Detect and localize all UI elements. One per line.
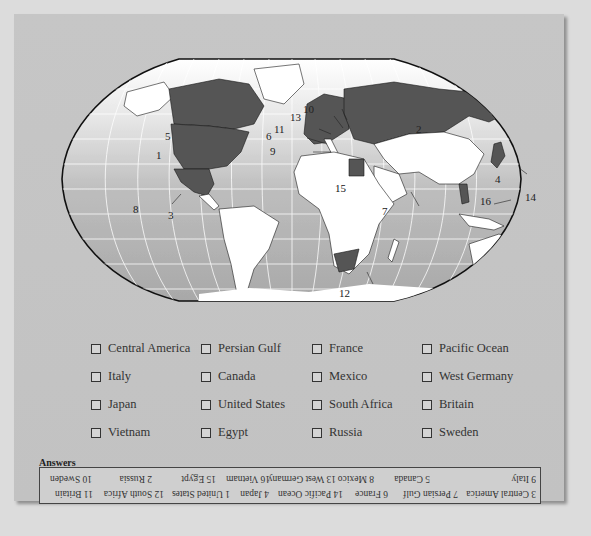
checkbox[interactable]	[422, 344, 432, 354]
quiz-item-label: Italy	[108, 369, 131, 384]
textbook-page: 1 2 3 4 5 6 7 8 9 10 11 12 13 14 15 16 C…	[14, 14, 564, 501]
quiz-item-central-america[interactable]: Central America	[91, 340, 201, 357]
map-label-1: 1	[156, 150, 162, 161]
quiz-item-label: Russia	[329, 425, 362, 440]
checkbox[interactable]	[312, 372, 322, 382]
checkbox[interactable]	[312, 400, 322, 410]
checkbox[interactable]	[422, 372, 432, 382]
map-label-5: 5	[165, 131, 171, 142]
quiz-item-italy[interactable]: Italy	[91, 368, 201, 385]
checkbox[interactable]	[312, 344, 322, 354]
quiz-item-label: United States	[218, 397, 285, 412]
answer: 15 Egypt	[181, 474, 216, 484]
quiz-item-canada[interactable]: Canada	[201, 368, 312, 385]
checkbox[interactable]	[91, 400, 101, 410]
quiz-item-vietnam[interactable]: Vietnam	[91, 424, 201, 441]
quiz-item-russia[interactable]: Russia	[312, 424, 422, 441]
map-label-13: 13	[290, 112, 301, 123]
quiz-item-label: Canada	[218, 369, 255, 384]
quiz-checklist: Central America Persian Gulf France Paci…	[91, 340, 551, 441]
checkbox[interactable]	[201, 372, 211, 382]
world-map-graphic	[49, 44, 529, 316]
quiz-item-france[interactable]: France	[312, 340, 422, 357]
quiz-item-west-germany[interactable]: West Germany	[422, 368, 551, 385]
checkbox[interactable]	[201, 344, 211, 354]
answer: 11 Britain	[55, 489, 93, 499]
checkbox[interactable]	[422, 400, 432, 410]
checkbox[interactable]	[91, 428, 101, 438]
answer: 13 West Germany	[268, 474, 336, 484]
quiz-item-britain[interactable]: Britain	[422, 396, 551, 413]
quiz-item-label: South Africa	[329, 397, 393, 412]
answer: 9 Italy	[511, 474, 536, 484]
answers-upside-down: 3 Central America 7 Persian Gulf 6 Franc…	[40, 468, 540, 503]
quiz-item-egypt[interactable]: Egypt	[201, 424, 312, 441]
answer: 7 Persian Gulf	[403, 489, 458, 499]
world-map: 1 2 3 4 5 6 7 8 9 10 11 12 13 14 15 16	[49, 44, 529, 316]
map-label-6: 6	[266, 131, 272, 142]
map-label-3: 3	[168, 210, 174, 221]
quiz-item-mexico[interactable]: Mexico	[312, 368, 422, 385]
checkbox[interactable]	[201, 400, 211, 410]
quiz-item-sweden[interactable]: Sweden	[422, 424, 551, 441]
answer: 12 South Africa	[104, 489, 164, 499]
quiz-item-label: Japan	[108, 397, 136, 412]
map-label-2: 2	[416, 124, 422, 135]
quiz-item-label: France	[329, 341, 363, 356]
answer: 2 Russia	[120, 474, 152, 484]
quiz-item-label: Persian Gulf	[218, 341, 281, 356]
quiz-item-label: Central America	[108, 341, 190, 356]
map-label-12: 12	[339, 288, 350, 299]
map-label-14: 14	[525, 192, 536, 203]
answer: 14 Pacific Ocean	[278, 489, 343, 499]
quiz-item-united-states[interactable]: United States	[201, 396, 312, 413]
checkbox[interactable]	[201, 428, 211, 438]
answer: 4 Japan	[240, 489, 269, 499]
map-label-10: 10	[303, 104, 314, 115]
answer: 8 Mexico	[338, 474, 374, 484]
quiz-item-label: West Germany	[439, 369, 513, 384]
quiz-item-pacific-ocean[interactable]: Pacific Ocean	[422, 340, 551, 357]
map-label-16: 16	[480, 196, 491, 207]
quiz-item-label: Pacific Ocean	[439, 341, 509, 356]
checkbox[interactable]	[91, 344, 101, 354]
answer: 16 Vietnam	[226, 474, 270, 484]
answer: 10 Sweden	[50, 474, 92, 484]
answer: 1 United States	[172, 489, 230, 499]
answer: 6 France	[355, 489, 388, 499]
checkbox[interactable]	[91, 372, 101, 382]
quiz-item-label: Britain	[439, 397, 474, 412]
checkbox[interactable]	[312, 428, 322, 438]
answer: 3 Central America	[466, 489, 536, 499]
map-label-11: 11	[274, 124, 285, 135]
checkbox[interactable]	[422, 428, 432, 438]
map-label-9: 9	[270, 146, 276, 157]
map-label-7: 7	[382, 206, 388, 217]
map-label-4: 4	[495, 174, 501, 185]
quiz-item-label: Vietnam	[108, 425, 150, 440]
quiz-item-label: Egypt	[218, 425, 248, 440]
quiz-item-south-africa[interactable]: South Africa	[312, 396, 422, 413]
quiz-item-japan[interactable]: Japan	[91, 396, 201, 413]
answer: 5 Canada	[394, 474, 430, 484]
quiz-item-label: Mexico	[329, 369, 367, 384]
map-label-8: 8	[133, 204, 139, 215]
map-label-15: 15	[335, 183, 346, 194]
quiz-item-persian-gulf[interactable]: Persian Gulf	[201, 340, 312, 357]
answers-box: 3 Central America 7 Persian Gulf 6 Franc…	[39, 467, 541, 504]
quiz-item-label: Sweden	[439, 425, 479, 440]
